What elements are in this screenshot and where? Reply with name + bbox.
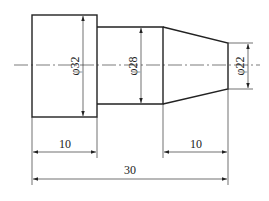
dimension-length-large: 10 xyxy=(33,137,96,152)
label-length-cone: 10 xyxy=(190,137,202,151)
label-diameter-large: φ32 xyxy=(68,57,82,76)
label-length-overall: 30 xyxy=(124,163,136,177)
dimension-diameter-small: φ22 xyxy=(228,43,253,89)
shaft-drawing: φ32 φ28 φ22 10 10 30 xyxy=(0,0,269,201)
dimension-diameter-middle: φ28 xyxy=(126,28,141,103)
label-length-large: 10 xyxy=(59,137,71,151)
label-diameter-middle: φ28 xyxy=(126,57,140,76)
dimension-length-overall: 30 xyxy=(33,163,227,179)
label-diameter-small: φ22 xyxy=(233,57,247,76)
cone-section xyxy=(163,27,228,104)
large-cylinder xyxy=(32,15,97,117)
dimension-diameter-large: φ32 xyxy=(68,16,83,116)
dimension-length-cone: 10 xyxy=(164,137,227,152)
